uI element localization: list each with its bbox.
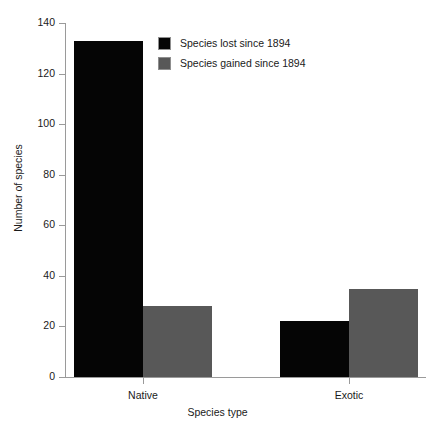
y-tick-label: 60 bbox=[43, 218, 55, 231]
y-tick-mark bbox=[59, 124, 65, 125]
y-tick-label: 80 bbox=[43, 168, 55, 181]
y-axis-title: Number of species bbox=[12, 88, 24, 288]
y-tick-mark bbox=[59, 326, 65, 327]
legend-swatch-lost-icon bbox=[158, 37, 171, 50]
y-tick-label: 0 bbox=[49, 370, 55, 383]
y-tick-label: 140 bbox=[37, 16, 55, 29]
legend-item-gained: Species gained since 1894 bbox=[158, 53, 306, 73]
bar-native-gained bbox=[143, 306, 212, 377]
y-tick-mark bbox=[59, 276, 65, 277]
plot-area bbox=[66, 23, 426, 377]
y-tick-label: 20 bbox=[43, 319, 55, 332]
x-tick-label: Exotic bbox=[335, 389, 364, 402]
x-tick-label: Native bbox=[128, 389, 158, 402]
y-tick-mark bbox=[59, 377, 65, 378]
legend-label-lost: Species lost since 1894 bbox=[180, 37, 290, 50]
legend-label-gained: Species gained since 1894 bbox=[180, 57, 306, 70]
y-tick-mark bbox=[59, 175, 65, 176]
y-tick-mark bbox=[59, 74, 65, 75]
bar-chart: 020406080100120140 NativeExotic Species … bbox=[0, 0, 435, 439]
x-axis-line bbox=[66, 377, 426, 378]
x-axis-title: Species type bbox=[0, 406, 435, 418]
chart-legend: Species lost since 1894 Species gained s… bbox=[158, 33, 306, 73]
legend-item-lost: Species lost since 1894 bbox=[158, 33, 306, 53]
bar-exotic-gained bbox=[349, 289, 418, 378]
x-tick-mark bbox=[349, 377, 350, 384]
y-tick-label: 120 bbox=[37, 67, 55, 80]
legend-swatch-gained-icon bbox=[158, 57, 171, 70]
y-tick-label: 100 bbox=[37, 117, 55, 130]
y-tick-label: 40 bbox=[43, 269, 55, 282]
x-tick-mark bbox=[143, 377, 144, 384]
y-tick-mark bbox=[59, 225, 65, 226]
bar-native-lost bbox=[74, 41, 143, 377]
y-tick-mark bbox=[59, 23, 65, 24]
bar-exotic-lost bbox=[280, 321, 349, 377]
